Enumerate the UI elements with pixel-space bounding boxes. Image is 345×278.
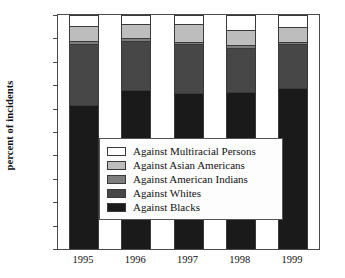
bar-segment	[278, 15, 308, 27]
bar-segment	[278, 27, 308, 42]
y-axis-tick	[53, 179, 58, 180]
y-axis-title-text: percent of incidents	[5, 80, 16, 170]
y-axis-tick	[53, 132, 58, 133]
y-axis-tick	[53, 62, 58, 63]
x-axis-tick-label: 1998	[210, 254, 270, 265]
legend-label: Against Whites	[133, 187, 201, 199]
bar-segment	[121, 41, 151, 90]
chart-figure: percent of incidents 0102030405060708090…	[0, 0, 345, 278]
bar-segment	[226, 45, 256, 47]
y-axis-tick	[53, 155, 58, 156]
bar-stack	[69, 15, 99, 249]
y-axis-tick	[53, 85, 58, 86]
legend-label: Against Multiracial Persons	[133, 145, 256, 157]
y-axis-tick	[53, 109, 58, 110]
legend-swatch	[107, 161, 126, 170]
y-axis-title: percent of incidents	[0, 0, 20, 250]
legend-item: Against Blacks	[107, 200, 276, 214]
bar-segment	[174, 42, 204, 44]
legend-item: Against American Indians	[107, 172, 276, 186]
legend-swatch	[107, 175, 126, 184]
legend-swatch	[107, 203, 126, 212]
bar-segment	[174, 24, 204, 42]
bar-segment	[69, 15, 99, 26]
legend-label: Against Blacks	[133, 201, 200, 213]
bar-segment	[226, 30, 256, 45]
bar-segment	[69, 26, 99, 41]
y-axis-tick	[53, 15, 58, 16]
legend-item: Against Whites	[107, 186, 276, 200]
chart-legend: Against Multiracial PersonsAgainst Asian…	[99, 138, 283, 220]
legend-label: Against American Indians	[133, 173, 248, 185]
x-axis-tick-label: 1999	[262, 254, 322, 265]
legend-swatch	[107, 147, 126, 156]
x-axis-tick-label: 1995	[53, 254, 113, 265]
legend-item: Against Asian Americans	[107, 158, 276, 172]
x-axis-tick-label: 1997	[158, 254, 218, 265]
bar-segment	[121, 38, 151, 40]
y-axis-tick	[53, 202, 58, 203]
legend-swatch	[107, 189, 126, 198]
bar-segment	[69, 44, 99, 105]
x-axis-tick-label: 1996	[105, 254, 165, 265]
y-axis-tick	[53, 226, 58, 227]
bar-segment	[174, 44, 204, 93]
y-axis-tick	[53, 38, 58, 39]
legend-label: Against Asian Americans	[133, 159, 245, 171]
bar-segment	[69, 105, 99, 249]
bar-segment	[69, 41, 99, 45]
bar-segment	[226, 15, 256, 30]
bar-segment	[174, 15, 204, 24]
bar-segment	[121, 24, 151, 38]
legend-item: Against Multiracial Persons	[107, 144, 276, 158]
bar-segment	[278, 42, 308, 44]
bar-segment	[121, 15, 151, 24]
y-axis-tick	[53, 249, 58, 250]
bar-segment	[226, 48, 256, 92]
bar-segment	[278, 44, 308, 87]
